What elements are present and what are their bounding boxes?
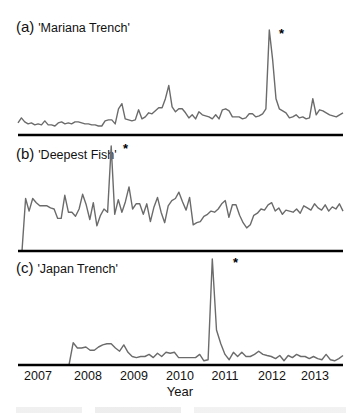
x-tick-2011: 2011	[212, 369, 239, 383]
series-deepest-fish	[22, 146, 343, 251]
peak-marker-a: *	[279, 26, 285, 41]
x-tick-2008: 2008	[74, 369, 102, 383]
series-line	[22, 146, 343, 251]
x-axis-label: Year	[167, 384, 193, 399]
figure-caption-cutoff	[16, 407, 346, 413]
x-tick-2009: 2009	[120, 369, 148, 383]
peak-marker-c: *	[233, 255, 239, 270]
peak-marker-b: *	[123, 141, 129, 156]
x-tick-2013: 2013	[301, 369, 329, 383]
series-line	[18, 30, 343, 126]
x-tick-2007: 2007	[24, 369, 52, 383]
chart-canvas: * * *	[0, 0, 361, 415]
series-japan-trench	[69, 259, 343, 365]
x-tick-2010: 2010	[166, 369, 194, 383]
series-mariana-trench	[18, 30, 343, 126]
series-line	[69, 259, 343, 365]
x-tick-2012: 2012	[258, 369, 286, 383]
